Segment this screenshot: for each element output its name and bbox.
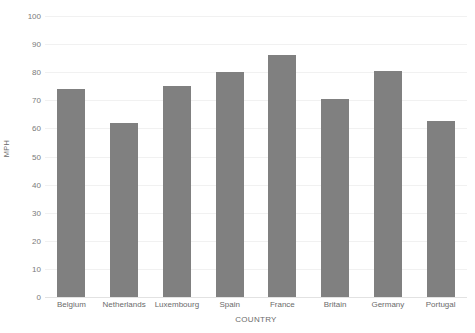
bar-chart: MPH 0102030405060708090100 BelgiumNether… [0, 0, 475, 333]
bar-slot [362, 16, 415, 297]
x-tick-label: Germany [371, 300, 404, 309]
bar-slot [98, 16, 151, 297]
bar[interactable] [163, 86, 191, 297]
x-tick-label: Netherlands [103, 300, 146, 309]
y-tick-label: 0 [37, 293, 41, 302]
y-tick-label: 50 [32, 152, 41, 161]
y-tick-label: 90 [32, 40, 41, 49]
bar-slot [45, 16, 98, 297]
bar-slot [414, 16, 467, 297]
x-tick-label: France [270, 300, 295, 309]
plot-area [45, 16, 467, 297]
y-tick-label: 60 [32, 124, 41, 133]
bar[interactable] [216, 72, 244, 297]
bar-slot [256, 16, 309, 297]
y-axis-title: MPH [0, 0, 14, 297]
y-tick-label: 100 [28, 12, 41, 21]
y-tick-label: 30 [32, 208, 41, 217]
bar[interactable] [374, 71, 402, 297]
y-axis-title-label: MPH [3, 140, 12, 158]
bars-layer [45, 16, 467, 297]
bar[interactable] [110, 123, 138, 297]
x-axis-tick-labels: BelgiumNetherlandsLuxembourgSpainFranceB… [45, 300, 467, 314]
x-axis-title: COUNTRY [45, 315, 467, 324]
x-tick-label: Belgium [57, 300, 86, 309]
y-tick-label: 70 [32, 96, 41, 105]
y-tick-label: 80 [32, 68, 41, 77]
x-tick-label: Luxembourg [155, 300, 199, 309]
x-tick-label: Spain [219, 300, 239, 309]
y-axis-tick-labels: 0102030405060708090100 [14, 0, 45, 333]
bar-slot [203, 16, 256, 297]
gridline [45, 297, 467, 298]
x-tick-label: Britain [324, 300, 347, 309]
bar[interactable] [268, 55, 296, 297]
bar-slot [309, 16, 362, 297]
y-tick-label: 10 [32, 264, 41, 273]
y-tick-label: 20 [32, 236, 41, 245]
y-tick-label: 40 [32, 180, 41, 189]
bar[interactable] [57, 89, 85, 297]
x-tick-label: Portugal [426, 300, 456, 309]
bar[interactable] [427, 121, 455, 297]
bar-slot [151, 16, 204, 297]
bar[interactable] [321, 99, 349, 297]
